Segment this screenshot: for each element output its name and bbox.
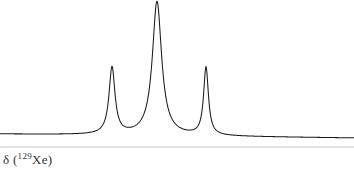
x-axis-label: δ (129Xe) [3,152,52,168]
nmr-spectrum-figure: δ (129Xe) [0,0,354,169]
axis-label-mass-number: 129 [18,152,32,161]
axis-label-element: Xe) [32,152,52,167]
axis-label-delta: δ ( [3,152,18,167]
spectrum-plot [0,0,354,169]
plot-background [0,0,354,169]
axis-label-clip-region: δ (129Xe) [0,152,354,169]
